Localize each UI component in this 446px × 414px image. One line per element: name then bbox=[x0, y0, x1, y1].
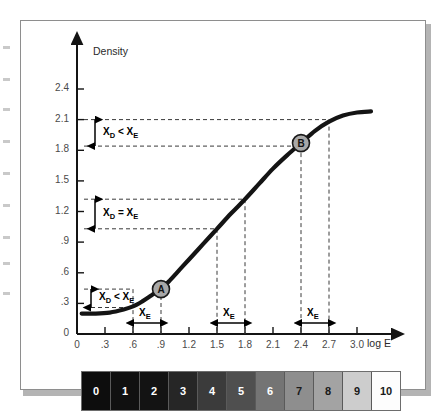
y-tick-label: 0 bbox=[41, 327, 69, 338]
step-patch: 7 bbox=[285, 372, 314, 410]
exposure-span-label-2: XE bbox=[223, 307, 235, 321]
x-tick-label: 2.7 bbox=[315, 339, 343, 350]
svg-text:A: A bbox=[157, 284, 164, 295]
annotation-top: XD < XE bbox=[103, 126, 138, 140]
exposure-span-1-var: X bbox=[139, 307, 146, 318]
exposure-span-3-sub: E bbox=[314, 312, 319, 321]
step-patch-label: 4 bbox=[198, 385, 226, 397]
y-axis-title: Density bbox=[93, 45, 128, 57]
y-tick-label: 1.2 bbox=[41, 205, 69, 216]
step-patch-label: 10 bbox=[372, 385, 400, 397]
x-tick-label: 0 bbox=[63, 339, 91, 350]
annotation-middle-left-sub: D bbox=[110, 212, 115, 221]
annotation-middle-right-sub: E bbox=[133, 212, 138, 221]
y-tick-label: 2.1 bbox=[41, 113, 69, 124]
x-tick-label: .3 bbox=[91, 339, 119, 350]
y-tick-label: .9 bbox=[41, 235, 69, 246]
annotation-middle-operator: = bbox=[118, 207, 124, 218]
x-tick-label: 2.1 bbox=[259, 339, 287, 350]
step-patch: 4 bbox=[198, 372, 227, 410]
step-patch: 3 bbox=[169, 372, 198, 410]
page-edge-artifact bbox=[0, 0, 14, 414]
exposure-span-2-var: X bbox=[223, 307, 230, 318]
annotation-bottom-right-sub: E bbox=[129, 296, 134, 305]
annotation-top-left-var: X bbox=[103, 126, 110, 137]
y-tick-label: .6 bbox=[41, 266, 69, 277]
annotation-top-operator: < bbox=[118, 126, 124, 137]
step-patch-label: 0 bbox=[82, 385, 110, 397]
step-patch-label: 8 bbox=[314, 385, 342, 397]
y-tick-label: 1.5 bbox=[41, 174, 69, 185]
step-patch: 0 bbox=[82, 372, 111, 410]
x-tick-label: 3.0 bbox=[343, 339, 371, 350]
step-patch: 6 bbox=[256, 372, 285, 410]
exposure-span-label-3: XE bbox=[307, 307, 319, 321]
exposure-span-3-var: X bbox=[307, 307, 314, 318]
step-patch-label: 9 bbox=[343, 385, 371, 397]
annotation-middle: XD = XE bbox=[103, 207, 138, 221]
step-patch-label: 7 bbox=[285, 385, 313, 397]
step-patch-label: 2 bbox=[140, 385, 168, 397]
step-patch: 8 bbox=[314, 372, 343, 410]
annotation-bottom-left-sub: D bbox=[106, 296, 111, 305]
svg-text:B: B bbox=[297, 138, 304, 149]
x-tick-label: 1.8 bbox=[231, 339, 259, 350]
y-axis-ticks bbox=[77, 89, 84, 334]
step-patch: 1 bbox=[111, 372, 140, 410]
step-patch-label: 3 bbox=[169, 385, 197, 397]
x-tick-label: .9 bbox=[147, 339, 175, 350]
annotation-top-right-sub: E bbox=[133, 131, 138, 140]
step-patch-label: 1 bbox=[111, 385, 139, 397]
exposure-span-2-sub: E bbox=[230, 312, 235, 321]
annotation-top-left-sub: D bbox=[110, 131, 115, 140]
annotation-middle-left-var: X bbox=[103, 207, 110, 218]
exposure-span-1-sub: E bbox=[146, 312, 151, 321]
characteristic-curve-chart: A B bbox=[21, 21, 427, 391]
x-tick-label: 2.4 bbox=[287, 339, 315, 350]
y-tick-label: .3 bbox=[41, 296, 69, 307]
step-patch: 10 bbox=[372, 372, 400, 410]
x-tick-label: 1.5 bbox=[203, 339, 231, 350]
exposure-span-label-1: XE bbox=[139, 307, 151, 321]
figure-panel: A B Density log E 0 .3 .6 .9 1.2 1.5 1.8… bbox=[20, 20, 426, 390]
y-tick-label: 1.8 bbox=[41, 143, 69, 154]
annotation-bottom: XD < XE bbox=[99, 291, 134, 305]
annotation-bottom-left-var: X bbox=[99, 291, 106, 302]
annotation-bottom-operator: < bbox=[114, 291, 120, 302]
step-patch: 5 bbox=[227, 372, 256, 410]
x-tick-label: .6 bbox=[119, 339, 147, 350]
step-patch: 9 bbox=[343, 372, 372, 410]
grayscale-step-wedge: 0 1 2 3 4 5 6 7 8 9 10 bbox=[81, 371, 401, 411]
density-difference-arrows bbox=[91, 120, 95, 308]
y-tick-label: 2.4 bbox=[41, 82, 69, 93]
x-tick-label: 1.2 bbox=[175, 339, 203, 350]
step-patch: 2 bbox=[140, 372, 169, 410]
step-patch-label: 5 bbox=[227, 385, 255, 397]
step-patch-label: 6 bbox=[256, 385, 284, 397]
